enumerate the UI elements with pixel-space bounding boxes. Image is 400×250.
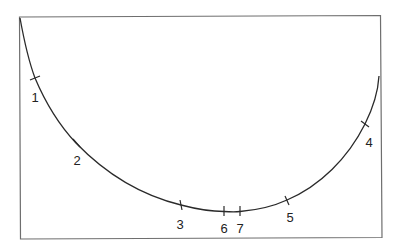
mark-label-3: 3 [176,217,183,232]
tick-mark-4 [361,121,369,127]
mark-label-2: 2 [73,153,80,168]
mark-label-7: 7 [236,221,243,236]
diagram-canvas: 1 2 3 4 5 6 7 [0,0,400,250]
mark-label-1: 1 [31,90,38,105]
diagram-frame [20,16,383,240]
mark-label-4: 4 [365,135,372,150]
u-curve [20,18,379,212]
mark-label-6: 6 [220,221,227,236]
tick-mark-2 [73,139,80,147]
mark-label-5: 5 [286,210,293,225]
